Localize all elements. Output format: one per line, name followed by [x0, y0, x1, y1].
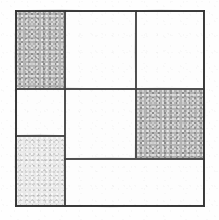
- cell-mid-right: [137, 90, 204, 158]
- frame-edge-left: [15, 10, 17, 207]
- cell-center: [66, 90, 135, 158]
- cell-mid-left: [16, 90, 64, 135]
- divider-vertical-left: [64, 10, 66, 207]
- cell-top-right: [137, 11, 204, 88]
- frame-edge-bottom: [15, 205, 205, 207]
- cell-top-middle: [66, 11, 135, 88]
- divider-horizontal-upper: [15, 88, 205, 90]
- cell-top-left: [16, 11, 64, 88]
- divider-vertical-right: [135, 10, 137, 158]
- divider-horizontal-lower: [64, 158, 205, 160]
- cell-bottom-left: [16, 137, 64, 206]
- rectangle-partition-figure: [0, 0, 219, 220]
- divider-horizontal-left: [15, 135, 65, 137]
- cell-bottom-right: [66, 160, 204, 206]
- frame-edge-right: [203, 10, 205, 207]
- frame-edge-top: [15, 10, 205, 12]
